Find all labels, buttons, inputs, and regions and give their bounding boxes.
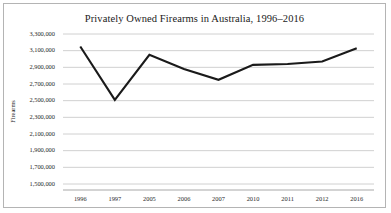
y-axis-tick-label: 2,900,000 [9, 63, 55, 70]
plot-area: 3,300,0003,100,0002,900,0002,700,0002,50… [4, 4, 387, 209]
y-axis-tick-label: 3,300,000 [9, 30, 55, 37]
y-axis-tick-label: 2,500,000 [9, 96, 55, 103]
y-axis-tick-label: 3,100,000 [9, 46, 55, 53]
chart-frame: Privately Owned Firearms in Australia, 1… [3, 3, 386, 208]
y-axis-title: Firearms [9, 89, 16, 135]
y-axis-tick-label: 1,900,000 [9, 146, 55, 153]
x-axis-tick-label: 2016 [337, 195, 377, 202]
y-axis-tick-label: 1,700,000 [9, 163, 55, 170]
y-axis-tick-label: 2,700,000 [9, 80, 55, 87]
y-axis-tick-label: 2,300,000 [9, 113, 55, 120]
gridlines [63, 34, 374, 184]
chart-svg [4, 4, 387, 209]
data-series-line [80, 47, 356, 100]
y-axis-tick-label: 2,100,000 [9, 130, 55, 137]
y-axis-tick-label: 1,500,000 [9, 180, 55, 187]
